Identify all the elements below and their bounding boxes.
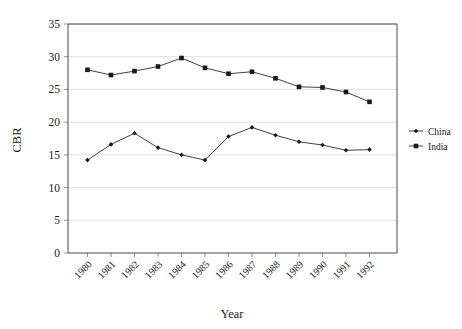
false (414, 129, 419, 134)
x-axis-title: Year (220, 307, 244, 321)
data-point-india-1984 (179, 56, 184, 61)
x-axis-tick-labels: 1980198119821983198419851986198719881989… (72, 259, 376, 281)
chart-legend: ChinaIndia (409, 127, 451, 152)
data-point-china-1989 (297, 139, 302, 144)
series-line-india (88, 58, 370, 102)
y-tick-label: 35 (49, 18, 61, 30)
y-axis-ticks (64, 24, 68, 253)
y-axis-title: CBR (10, 127, 24, 153)
x-tick-label: 1992 (354, 259, 376, 281)
data-point-india-1987 (250, 69, 255, 74)
x-tick-label: 1981 (95, 259, 117, 281)
x-tick-label: 1986 (213, 259, 235, 281)
data-point-india-1989 (297, 85, 302, 90)
data-point-india-1992 (367, 100, 372, 105)
x-tick-label: 1989 (283, 259, 305, 281)
data-point-china-1983 (156, 145, 161, 150)
x-tick-label: 1985 (189, 259, 211, 281)
x-axis-ticks (88, 253, 370, 257)
x-tick-label: 1984 (166, 259, 188, 281)
gridlines (68, 24, 397, 220)
y-tick-label: 10 (49, 182, 61, 194)
y-tick-label: 30 (49, 51, 61, 63)
data-point-china-1991 (344, 148, 349, 153)
data-point-china-1984 (179, 153, 184, 158)
x-tick-label: 1988 (260, 259, 282, 281)
data-point-india-1982 (132, 69, 137, 74)
legend-label-india: India (428, 142, 448, 152)
y-tick-label: 15 (49, 149, 61, 161)
data-point-china-1987 (250, 125, 255, 130)
y-tick-label: 25 (49, 83, 61, 95)
data-point-china-1988 (273, 133, 278, 138)
y-tick-label: 20 (49, 116, 61, 128)
data-point-india-1981 (109, 73, 114, 78)
data-point-india-1991 (344, 90, 349, 95)
y-tick-label: 5 (54, 214, 60, 226)
line-chart: 05101520253035 1980198119821983198419851… (0, 0, 462, 329)
x-tick-label: 1987 (236, 259, 258, 281)
y-tick-label: 0 (54, 247, 60, 259)
data-point-china-1992 (367, 147, 372, 152)
x-tick-label: 1990 (307, 259, 329, 281)
legend-label-china: China (428, 127, 451, 137)
data-point-india-1990 (320, 85, 325, 90)
x-tick-label: 1982 (119, 259, 141, 281)
data-point-india-1980 (85, 68, 90, 73)
x-tick-label: 1991 (330, 259, 352, 281)
data-point-china-1982 (132, 131, 137, 136)
chart-container: 05101520253035 1980198119821983198419851… (0, 0, 462, 329)
data-point-india-1986 (226, 71, 231, 76)
x-tick-label: 1983 (142, 259, 164, 281)
data-point-india-1988 (273, 76, 278, 81)
false (414, 144, 419, 149)
data-point-india-1985 (203, 66, 208, 71)
data-point-china-1990 (320, 143, 325, 148)
y-axis-tick-labels: 05101520253035 (49, 18, 61, 259)
x-tick-label: 1980 (72, 259, 94, 281)
data-point-india-1983 (156, 64, 161, 69)
